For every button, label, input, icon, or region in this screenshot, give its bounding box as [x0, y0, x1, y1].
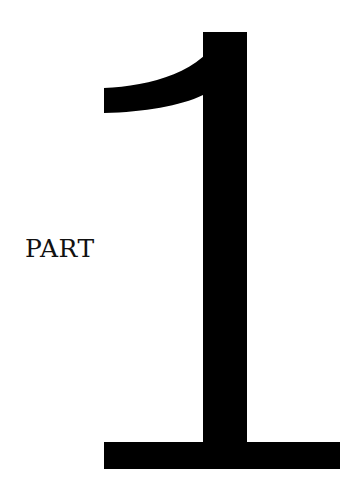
part-number-numeral: 1 [0, 0, 355, 497]
numeral-stem [203, 32, 247, 446]
numeral-base [104, 442, 340, 469]
